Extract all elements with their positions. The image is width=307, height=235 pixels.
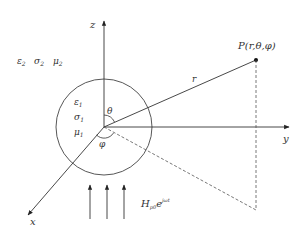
theta-label: θ bbox=[107, 106, 113, 116]
svg-text:ε1: ε1 bbox=[74, 97, 83, 108]
radius-line bbox=[104, 60, 256, 127]
radius-label: r bbox=[192, 74, 197, 84]
z-axis-label: z bbox=[89, 19, 96, 30]
projection-ground bbox=[104, 127, 256, 210]
svg-text:σ2: σ2 bbox=[34, 56, 44, 67]
point-p-label: P(r,θ,φ) bbox=[237, 40, 276, 51]
x-axis bbox=[28, 127, 104, 215]
inner-sphere-params: ε1 σ1 μ1 bbox=[74, 97, 84, 138]
x-axis-label: x bbox=[30, 216, 36, 227]
svg-text:μ2: μ2 bbox=[53, 56, 63, 67]
svg-text:μ1: μ1 bbox=[74, 127, 84, 138]
phi-arc bbox=[97, 133, 114, 138]
theta-arc bbox=[104, 115, 115, 122]
svg-text:ε2: ε2 bbox=[17, 56, 26, 67]
field-arrows bbox=[90, 185, 124, 219]
phi-label: φ bbox=[99, 139, 106, 149]
outer-medium-params: ε2 σ2 μ2 bbox=[17, 56, 63, 67]
y-axis-label: y bbox=[282, 133, 289, 144]
svg-text:σ1: σ1 bbox=[74, 112, 84, 123]
field-label: Hp0ejωt bbox=[140, 197, 171, 211]
spherical-diagram: z y x P(r,θ,φ) r θ φ ε2 σ2 μ2 ε1 σ1 μ1 H… bbox=[0, 0, 307, 235]
